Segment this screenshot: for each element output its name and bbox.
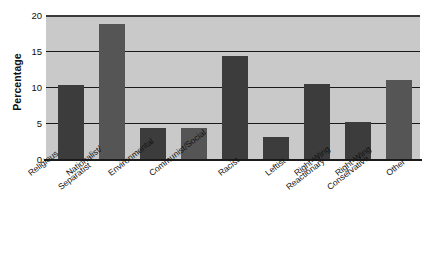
x-axis-category-labels: Religious Nationalist/ Separatist Enviro…	[0, 0, 428, 253]
x-label-religious: Religious	[26, 148, 60, 178]
x-label-leftist: Leftist	[263, 156, 288, 178]
x-label-other: Other	[384, 157, 407, 179]
x-label-racist: Racist	[216, 155, 241, 178]
bar-chart-figure: Percentage 20 15 10 5 0 Religious Nation…	[0, 0, 428, 253]
x-label-communist-social: Communist/Social	[147, 127, 208, 178]
